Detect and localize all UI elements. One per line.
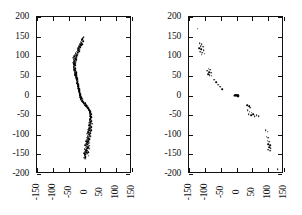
x-tick-label: 150 [278, 185, 288, 199]
y-tick [37, 76, 41, 77]
x-tick [53, 168, 54, 172]
x-tick [284, 168, 285, 172]
y-tick-label: 150 [167, 31, 181, 41]
y-tick [278, 174, 282, 175]
data-point [91, 126, 93, 128]
x-tick [268, 17, 269, 21]
data-point [90, 136, 92, 138]
x-tick-label: -100 [47, 184, 57, 201]
plot-frame-right [188, 16, 283, 173]
x-tick-label: 0 [231, 190, 241, 195]
data-point [214, 79, 216, 81]
x-tick-label: 50 [94, 187, 104, 196]
scatter-panel-right: -200-150-100-50050100150200-150-100-5005… [151, 0, 302, 215]
data-point [81, 44, 83, 46]
x-tick [284, 17, 285, 21]
y-tick-label: -100 [164, 129, 181, 139]
data-point [88, 148, 90, 150]
y-tick [278, 135, 282, 136]
data-point [91, 123, 93, 125]
data-point [197, 28, 199, 30]
y-tick-label: 0 [176, 90, 181, 100]
y-tick [126, 174, 130, 175]
x-tick-label: 50 [246, 187, 256, 196]
x-tick-label: 150 [126, 185, 136, 199]
data-point [88, 155, 90, 157]
x-tick [69, 17, 70, 21]
x-tick-label: -150 [31, 184, 41, 201]
y-tick [189, 154, 193, 155]
x-tick [69, 168, 70, 172]
y-tick-label: 200 [167, 11, 181, 21]
x-tick-label: 0 [79, 190, 89, 195]
x-tick [37, 168, 38, 172]
y-tick [37, 154, 41, 155]
data-point [90, 129, 92, 131]
y-tick-label: -100 [12, 129, 29, 139]
data-point [250, 107, 252, 109]
y-tick-label: 100 [167, 50, 181, 60]
y-tick [37, 135, 41, 136]
y-tick [126, 115, 130, 116]
y-tick [126, 96, 130, 97]
x-tick [268, 168, 269, 172]
data-point [221, 88, 223, 90]
x-tick [189, 168, 190, 172]
x-tick [116, 168, 117, 172]
x-tick-label: 100 [110, 185, 120, 199]
y-tick [278, 17, 282, 18]
x-tick [221, 17, 222, 21]
y-tick-label: -150 [164, 148, 181, 158]
y-tick-label: -150 [12, 148, 29, 158]
y-tick-label: 50 [172, 70, 181, 80]
data-point [277, 168, 279, 170]
y-tick-label: 200 [15, 11, 29, 21]
y-tick [126, 154, 130, 155]
x-tick [100, 168, 101, 172]
y-tick [126, 76, 130, 77]
y-tick [189, 76, 193, 77]
y-tick [37, 96, 41, 97]
data-point [248, 114, 250, 116]
data-point [211, 75, 213, 77]
y-tick [278, 154, 282, 155]
y-tick [189, 115, 193, 116]
data-point [82, 40, 84, 42]
x-tick-label: -100 [199, 184, 209, 201]
data-point [215, 81, 217, 83]
x-tick [37, 17, 38, 21]
x-tick [85, 17, 86, 21]
x-tick [53, 17, 54, 21]
data-point [209, 69, 211, 71]
x-tick [237, 17, 238, 21]
data-point [84, 158, 86, 160]
y-tick [278, 96, 282, 97]
x-tick [205, 168, 206, 172]
points-layer-right [189, 17, 282, 172]
y-tick [126, 17, 130, 18]
y-tick-label: -200 [164, 168, 181, 178]
x-tick [189, 17, 190, 21]
x-tick-label: -50 [215, 186, 225, 198]
data-point [258, 116, 260, 118]
x-tick [205, 17, 206, 21]
y-tick [189, 135, 193, 136]
y-tick-label: -50 [169, 109, 181, 119]
x-tick [132, 17, 133, 21]
y-tick [278, 76, 282, 77]
x-tick [221, 168, 222, 172]
x-tick [132, 168, 133, 172]
y-tick [37, 56, 41, 57]
y-tick-label: 0 [24, 90, 29, 100]
y-tick [126, 135, 130, 136]
x-tick [252, 17, 253, 21]
y-tick [37, 115, 41, 116]
y-tick [126, 37, 130, 38]
data-point [217, 84, 219, 86]
data-point [219, 86, 221, 88]
x-tick-label: -50 [63, 186, 73, 198]
x-tick-label: -150 [183, 184, 193, 201]
y-tick-label: 150 [15, 31, 29, 41]
y-tick [189, 96, 193, 97]
data-point [270, 150, 272, 152]
